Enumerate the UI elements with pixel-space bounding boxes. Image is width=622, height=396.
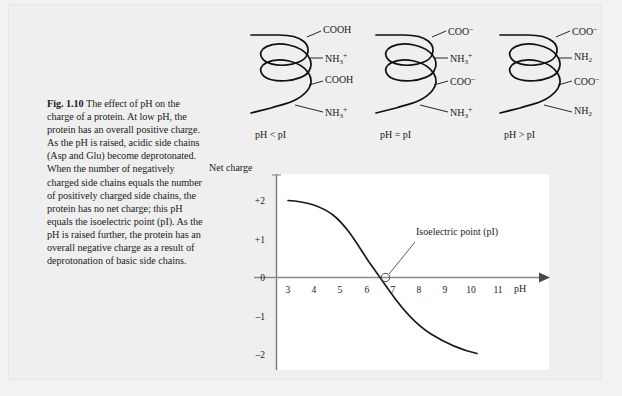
group-label-3: COO– [574,74,599,87]
helix-coil-icon [498,13,622,145]
group-label-2: NH3+ [325,51,347,66]
group-label-4: NH2 [574,105,592,118]
helix-coil-icon [249,13,373,145]
x-tick-label-6: 6 [359,284,375,295]
x-tick-label-10: 10 [463,284,479,295]
helix-coil-icon [374,13,498,145]
y-tick-label-neg2: –2 [243,349,265,360]
chart-graphics [209,160,609,385]
group-label-2: NH3+ [450,51,472,66]
group-label-1: COO– [448,24,473,37]
group-label-3: COO– [450,74,475,87]
x-tick-label-11: 11 [490,284,506,295]
group-label-4: NH3+ [450,105,472,120]
x-tick-label-9: 9 [437,284,453,295]
y-tick-label-neg1: –1 [243,311,265,322]
condition-label-high-ph: pH > pI [504,129,535,140]
figure-number: Fig. 1.10 [47,98,84,109]
x-axis-arrowhead [539,273,550,283]
group-label-1: COO– [572,24,597,37]
y-axis-label: Net charge [209,162,252,173]
isoelectric-point-leader [389,242,415,274]
group-label-4: NH3+ [325,105,347,120]
figure-caption-text: The effect of pH on the charge of a prot… [47,98,203,266]
isoelectric-point-annotation: Isoelectric point (pI) [416,226,498,237]
x-tick-label-3: 3 [280,284,296,295]
protein-diagram-isoelectric: COO– NH3+ COO– NH3+ pH = pI [374,13,498,145]
figure-sheet: Fig. 1.10 The effect of pH on the charge… [8,4,602,380]
y-tick-label-2: +2 [243,195,265,206]
y-tick-label-0: 0 [243,272,265,283]
group-label-3: COOH [325,74,353,85]
condition-label-low-ph: pH < pI [255,129,286,140]
x-tick-label-7: 7 [385,284,401,295]
x-tick-label-4: 4 [306,284,322,295]
figure-page: Fig. 1.10 The effect of pH on the charge… [0,0,622,396]
figure-caption: Fig. 1.10 The effect of pH on the charge… [47,97,207,267]
y-tick-label-1: +1 [243,234,265,245]
x-tick-label-8: 8 [411,284,427,295]
group-label-2: NH2 [574,51,592,64]
group-label-1: COOH [323,24,351,35]
protein-diagram-high-ph: COO– NH2 COO– NH2 pH > pI [498,13,622,145]
x-axis-label: pH [514,283,526,294]
protein-diagram-low-ph: COOH NH3+ COOH NH3+ pH < pI [249,13,373,145]
condition-label-isoelectric: pH = pI [380,129,411,140]
x-tick-label-5: 5 [332,284,348,295]
net-charge-vs-ph-chart: Net charge +2 +1 0 –1 –2 3 4 5 6 7 8 9 1… [209,160,609,385]
